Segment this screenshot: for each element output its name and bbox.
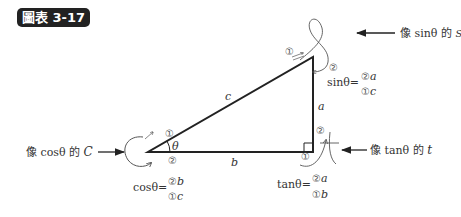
cos-mark-2: ② xyxy=(168,155,177,166)
tan-formula-lhs: tanθ= xyxy=(277,178,311,191)
trig-diagram: c a b θ ① ② 像 sinθ 的 S sinθ= ②a ①c ① ② 像… xyxy=(0,0,461,217)
tan-mark-1: ① xyxy=(301,151,310,162)
cos-mark-1: ① xyxy=(165,128,174,139)
cos-denominator: ①c xyxy=(168,190,183,203)
side-c-label: c xyxy=(225,90,231,103)
side-a-label: a xyxy=(318,100,325,113)
cos-numerator: ②b xyxy=(168,175,184,188)
sin-s-stroke xyxy=(292,19,328,72)
angle-arc xyxy=(167,141,170,152)
tan-mark-2: ② xyxy=(316,125,325,136)
sin-caption: 像 sinθ 的 S xyxy=(400,26,461,40)
sin-denominator: ①c xyxy=(361,85,376,98)
sin-mark-1: ① xyxy=(285,46,294,57)
side-b-label: b xyxy=(231,156,238,169)
tan-numerator: ②a xyxy=(312,172,328,185)
cos-c-stroke xyxy=(125,132,153,166)
sin-formula-lhs: sinθ= xyxy=(327,76,359,89)
tan-denominator: ①b xyxy=(312,188,328,201)
tan-caption: 像 tanθ 的 t xyxy=(370,143,432,157)
sin-numerator: ②a xyxy=(361,70,377,83)
angle-theta-label: θ xyxy=(172,140,179,153)
cos-formula-lhs: cosθ= xyxy=(133,181,167,194)
cos-caption: 像 cosθ 的 C xyxy=(26,145,93,159)
sin-mark-2: ② xyxy=(329,62,338,73)
